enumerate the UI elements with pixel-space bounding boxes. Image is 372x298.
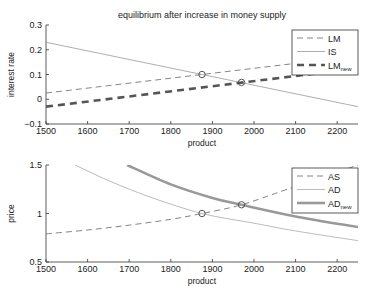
y-axis-label: price: [6, 204, 16, 223]
y-tick-label: 1.5: [29, 160, 42, 170]
legend-subscript: new: [341, 204, 353, 210]
y-tick-label: 0.1: [29, 70, 42, 80]
x-tick-label: 2100: [286, 264, 306, 274]
legend: ASADADnew: [292, 168, 358, 213]
x-tick-label: 1600: [78, 264, 98, 274]
x-tick-label: 2000: [244, 264, 264, 274]
x-tick-label: 1900: [202, 264, 222, 274]
legend-label: LM: [328, 34, 341, 44]
y-tick-label: 0.2: [29, 45, 42, 55]
legend-label: IS: [328, 47, 337, 57]
x-axis-label: product: [188, 138, 217, 148]
asad-chart: 150016001700180019002000210022000.511.5p…: [6, 160, 358, 286]
y-tick-label: 1: [37, 209, 42, 219]
x-axis-label: product: [188, 276, 217, 286]
x-tick-label: 1600: [78, 126, 98, 136]
y-tick-label: 0.5: [29, 257, 42, 267]
x-tick-label: 2100: [286, 126, 306, 136]
legend-subscript: new: [341, 66, 353, 72]
chart-title: equilibrium after increase in money supp…: [118, 10, 287, 20]
x-tick-label: 1700: [119, 126, 139, 136]
y-tick-label: −0.1: [24, 119, 42, 129]
y-axis-label: interest rate: [6, 52, 16, 97]
legend-label: AS: [328, 172, 340, 182]
x-tick-label: 2000: [244, 126, 264, 136]
islm-chart: equilibrium after increase in money supp…: [6, 10, 358, 148]
x-tick-label: 1800: [161, 126, 181, 136]
legend-label: AD: [328, 185, 341, 195]
x-tick-label: 1700: [119, 264, 139, 274]
figure: equilibrium after increase in money supp…: [0, 0, 372, 298]
x-tick-label: 2200: [327, 264, 347, 274]
x-tick-label: 2200: [327, 126, 347, 136]
x-tick-label: 1900: [202, 126, 222, 136]
y-tick-label: 0: [37, 94, 42, 104]
x-tick-label: 1800: [161, 264, 181, 274]
y-tick-label: 0.3: [29, 20, 42, 30]
legend: LMISLMnew: [292, 30, 358, 75]
